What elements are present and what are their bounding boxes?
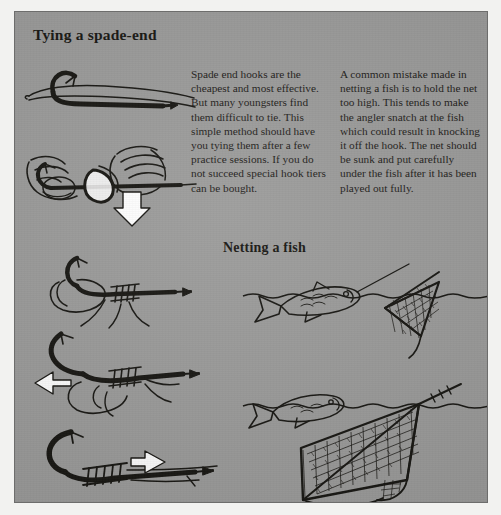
illustration-spade-end-hook-with-line bbox=[23, 62, 198, 132]
page-title: Tying a spade-end bbox=[33, 26, 157, 44]
waterline bbox=[243, 294, 488, 298]
illustration-panel: Tying a spade-end Netting a fish Spade e… bbox=[14, 11, 488, 503]
illustration-hook-tightening-knot bbox=[19, 330, 209, 420]
illustration-finished-whipped-hook bbox=[27, 424, 222, 502]
illustration-hook-with-loop-and-coils bbox=[25, 252, 205, 332]
scanned-page: Tying a spade-end Netting a fish Spade e… bbox=[0, 0, 501, 515]
text-column-right: A common mistake made in netting a fish … bbox=[340, 67, 482, 195]
direction-arrow-left bbox=[35, 372, 71, 394]
direction-arrow-down bbox=[114, 192, 150, 226]
illustration-hands-tying-whip-knot bbox=[21, 140, 201, 240]
illustration-fish-with-net-sunk-correctly bbox=[243, 384, 488, 502]
net-mesh bbox=[389, 284, 439, 338]
text-column-left: Spade end hooks are the cheapest and mos… bbox=[191, 67, 329, 195]
section-title-netting: Netting a fish bbox=[223, 240, 306, 256]
illustration-fish-with-net-held-too-high bbox=[243, 260, 488, 378]
